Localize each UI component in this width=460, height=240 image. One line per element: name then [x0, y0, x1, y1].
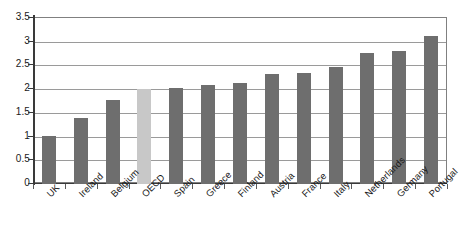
x-axis-tick-mark	[256, 184, 257, 189]
x-axis-tick-mark	[351, 184, 352, 189]
bar-portugal[interactable]	[424, 36, 438, 184]
x-axis-tick-mark	[320, 184, 321, 189]
x-axis-tick-mark	[129, 184, 130, 189]
bar-uk[interactable]	[42, 136, 56, 184]
bar-finland[interactable]	[233, 83, 247, 184]
bar-france[interactable]	[297, 73, 311, 184]
y-axis-tick-mark	[28, 41, 34, 42]
bar-italy[interactable]	[329, 67, 343, 184]
y-axis-tick-label: 3	[2, 36, 30, 46]
bar-oecd[interactable]	[137, 89, 151, 184]
bar-belgium[interactable]	[106, 100, 120, 184]
x-axis-tick-mark	[224, 184, 225, 189]
y-axis-tick-mark	[28, 159, 34, 160]
bar-netherlands[interactable]	[360, 53, 374, 184]
y-axis-tick-mark	[28, 64, 34, 65]
y-axis-tick-label: 1	[2, 131, 30, 141]
y-axis-tick-mark	[28, 88, 34, 89]
bars-container	[33, 17, 447, 184]
y-axis-tick-mark	[28, 17, 34, 18]
x-axis-tick-mark	[447, 184, 448, 189]
x-axis-tick-mark	[288, 184, 289, 189]
x-axis-tick-mark	[383, 184, 384, 189]
bar-ireland[interactable]	[74, 118, 88, 184]
y-axis-tick-label: 1.5	[2, 107, 30, 117]
bar-spain[interactable]	[169, 88, 183, 184]
bar-greece[interactable]	[201, 85, 215, 184]
x-axis-tick-mark	[97, 184, 98, 189]
y-axis-tick-label: 2	[2, 83, 30, 93]
bar-austria[interactable]	[265, 74, 279, 184]
y-axis-tick-label: 0	[2, 178, 30, 188]
x-axis-tick-mark	[160, 184, 161, 189]
y-axis-tick-mark	[28, 136, 34, 137]
x-axis-tick-mark	[65, 184, 66, 189]
x-axis-tick-mark	[415, 184, 416, 189]
y-axis-tick-label: 0.5	[2, 154, 30, 164]
x-axis-label-uk: UK	[45, 183, 62, 200]
x-axis-category-labels: UKIrelandBelgiumOECDSpainGreeceFinlandAu…	[0, 188, 456, 240]
x-axis-tick-mark	[192, 184, 193, 189]
y-axis-tick-mark	[28, 112, 34, 113]
y-axis-tick-label: 2.5	[2, 59, 30, 69]
y-axis-tick-label: 3.5	[2, 12, 30, 22]
x-axis-tick-mark	[33, 184, 34, 189]
